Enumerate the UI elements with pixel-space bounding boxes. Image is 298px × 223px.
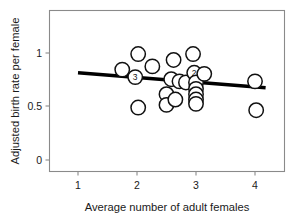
data-point [168, 92, 182, 106]
data-point-marker [186, 47, 200, 61]
x-tick-label-1: 1 [75, 179, 81, 191]
x-axis-ticks [78, 172, 255, 176]
data-point [197, 67, 211, 81]
data-point-marker [115, 62, 129, 76]
data-point [131, 100, 145, 114]
data-point: 3 [128, 70, 142, 84]
data-point-marker [145, 59, 159, 73]
data-point-marker [197, 67, 211, 81]
plot-canvas: 1 0.5 0 1 2 3 4 Average number of adult … [0, 0, 298, 223]
data-point [145, 59, 159, 73]
data-point-marker [131, 47, 145, 61]
data-point [189, 97, 203, 111]
y-tick-label-0-5: 0.5 [27, 100, 42, 112]
data-point [115, 62, 129, 76]
x-tick-label-4: 4 [252, 179, 258, 191]
data-point [248, 74, 262, 88]
data-point-marker [189, 97, 203, 111]
data-point-marker [131, 100, 145, 114]
data-point-count-label: 3 [133, 72, 138, 82]
x-axis-title: Average number of adult females [85, 201, 250, 213]
x-tick-label-2: 2 [134, 179, 140, 191]
y-tick-label-0: 0 [36, 154, 42, 166]
y-tick-label-1: 1 [36, 47, 42, 59]
data-point-marker [166, 53, 180, 67]
data-point [249, 103, 263, 117]
data-point [186, 47, 200, 61]
data-point-marker [168, 92, 182, 106]
y-axis-title: Adjusted birth rate per female [9, 18, 21, 165]
scatter-plot-figure: 1 0.5 0 1 2 3 4 Average number of adult … [0, 0, 298, 223]
x-tick-label-3: 3 [193, 179, 199, 191]
data-point-marker [248, 74, 262, 88]
data-points-layer: 32 [115, 47, 263, 118]
data-point [166, 53, 180, 67]
data-point-marker [249, 103, 263, 117]
y-axis-ticks [46, 53, 50, 160]
data-point [131, 47, 145, 61]
